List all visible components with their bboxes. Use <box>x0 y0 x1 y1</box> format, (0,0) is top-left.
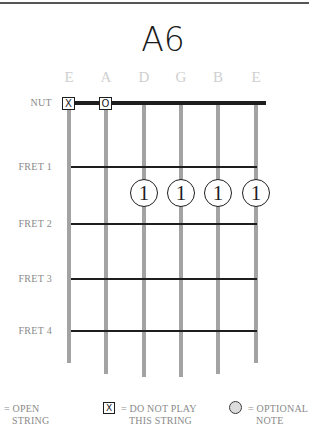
string-label-a: A <box>91 69 121 86</box>
finger-dot-g: 1 <box>167 179 195 207</box>
fret-4 <box>71 330 257 332</box>
string-low-e <box>67 103 71 363</box>
muted-string-marker: X <box>62 97 75 110</box>
fret-label-3: FRET 3 <box>0 273 52 284</box>
finger-dot-high-e: 1 <box>242 179 270 207</box>
string-label-low-e: E <box>54 69 84 86</box>
finger-dot-d: 1 <box>130 179 158 207</box>
fret-3 <box>71 278 257 280</box>
legend-optional-line2: NOTE <box>248 415 308 427</box>
x-icon: X <box>65 99 72 109</box>
chord-title: A6 <box>0 20 309 59</box>
open-string-marker: O <box>99 97 112 110</box>
fret-label-4: FRET 4 <box>0 325 52 336</box>
top-rule <box>0 2 309 4</box>
legend-muted-line1: = DO NOT PLAY <box>121 403 197 415</box>
string-label-g: G <box>166 69 196 86</box>
legend-muted-box: X <box>103 402 115 414</box>
legend-open: = OPEN STRING <box>4 403 49 427</box>
string-b <box>216 103 220 374</box>
legend-open-line1: = OPEN <box>4 403 49 415</box>
string-high-e <box>254 103 258 363</box>
finger-dot-b: 1 <box>204 179 232 207</box>
string-label-d: D <box>129 69 159 86</box>
string-d <box>142 103 146 377</box>
fret-label-1: FRET 1 <box>0 161 52 172</box>
fret-1 <box>71 166 257 168</box>
nut <box>62 101 266 105</box>
optional-note-icon <box>229 401 242 414</box>
o-icon: O <box>102 99 110 109</box>
legend-muted: = DO NOT PLAY THIS STRING <box>121 403 197 427</box>
legend-optional: = OPTIONAL NOTE <box>248 403 308 427</box>
x-icon: X <box>106 404 112 413</box>
legend-optional-line1: = OPTIONAL <box>248 403 308 415</box>
fret-2 <box>71 223 257 225</box>
legend-open-line2: STRING <box>4 415 49 427</box>
legend-muted-line2: THIS STRING <box>121 415 197 427</box>
nut-label: NUT <box>0 97 52 108</box>
string-label-b: B <box>203 69 233 86</box>
string-label-high-e: E <box>241 69 271 86</box>
fret-label-2: FRET 2 <box>0 218 52 229</box>
string-g <box>179 103 183 377</box>
string-a <box>104 103 108 374</box>
